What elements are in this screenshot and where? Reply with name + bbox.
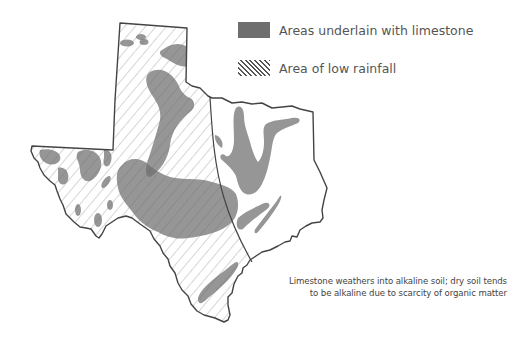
legend-item-low-rainfall: Area of low rainfall <box>238 58 473 78</box>
hatch-swatch-icon <box>238 60 270 76</box>
caption-line-1: Limestone weathers into alkaline soil; d… <box>289 275 507 287</box>
map-caption: Limestone weathers into alkaline soil; d… <box>289 275 507 299</box>
legend-label-low-rainfall: Area of low rainfall <box>279 61 396 76</box>
legend: Areas underlain with limestone Area of l… <box>238 20 473 96</box>
legend-item-limestone: Areas underlain with limestone <box>238 20 473 40</box>
limestone-swatch-icon <box>238 22 270 38</box>
caption-line-2: to be alkaline due to scarcity of organi… <box>289 287 507 299</box>
legend-label-limestone: Areas underlain with limestone <box>279 23 473 38</box>
